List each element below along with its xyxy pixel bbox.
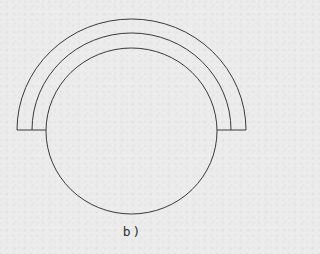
inner-circle (46, 48, 217, 214)
outer-arc (17, 19, 246, 130)
diagram-canvas (0, 0, 265, 254)
figure-caption: b) (0, 224, 265, 239)
